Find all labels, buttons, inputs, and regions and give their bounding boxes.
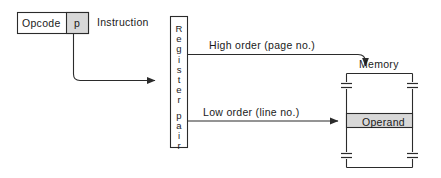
break-mark-bottom-right	[407, 154, 418, 158]
break-mark-bottom-left	[341, 154, 352, 158]
operand-row-label: Operand	[362, 116, 405, 128]
pointer-field-label: p	[74, 17, 80, 29]
register-letter: r	[171, 141, 187, 151]
opcode-field-label: Opcode	[22, 17, 61, 29]
diagram-canvas	[0, 0, 441, 178]
break-mark-top-left	[341, 84, 352, 88]
low-order-connector-label: Low order (line no.)	[203, 106, 299, 118]
memory-box-label: Memory	[359, 58, 399, 70]
instruction-caption: Instruction	[97, 16, 149, 28]
register-pair-label: R e g i s t e r p a i r	[171, 24, 187, 151]
addressing-diagram: Opcode p Instruction R e g i s t e r p a…	[0, 0, 441, 178]
break-mark-top-right	[407, 84, 418, 88]
high-order-connector	[188, 55, 366, 67]
pointer-to-register-connector	[74, 34, 156, 81]
register-letter: r	[171, 95, 187, 105]
high-order-connector-label: High order (page no.)	[209, 39, 315, 51]
